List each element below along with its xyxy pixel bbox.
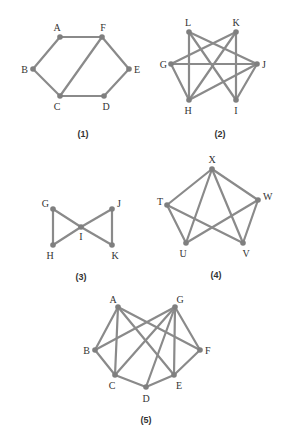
vertex-D [101, 93, 107, 99]
vertex-label-H: H [184, 105, 191, 116]
vertex-J [254, 61, 260, 67]
edge-C-F [60, 37, 102, 96]
edge-G-I [53, 209, 81, 227]
graph-4: XTWUV(4) [157, 154, 273, 280]
vertex-G [168, 61, 174, 67]
vertex-J [109, 206, 115, 212]
vertex-A [57, 34, 63, 40]
vertex-D [143, 384, 149, 390]
edge-J-I [81, 209, 112, 227]
graph-1: AFBECD(1) [21, 22, 140, 139]
vertex-label-F: F [205, 345, 211, 356]
vertex-I [78, 224, 84, 230]
vertex-label-F: F [100, 22, 106, 33]
vertex-C [112, 372, 118, 378]
vertex-X [209, 166, 215, 172]
edge-C-D [115, 375, 146, 387]
edge-H-I [53, 227, 81, 245]
vertex-label-A: A [109, 294, 117, 305]
edge-W-U [186, 200, 258, 243]
vertex-label-G: G [176, 294, 183, 305]
vertex-label-B: B [83, 345, 90, 356]
vertex-H [50, 242, 56, 248]
edge-E-F [174, 350, 200, 375]
vertex-label-K: K [232, 17, 240, 28]
vertex-V [240, 240, 246, 246]
edge-G-E [174, 307, 175, 375]
vertex-G [172, 304, 178, 310]
vertex-E [126, 66, 132, 72]
vertex-A [115, 304, 121, 310]
graph-caption: (2) [215, 129, 226, 139]
vertex-label-H: H [46, 250, 53, 261]
vertex-U [183, 240, 189, 246]
edge-E-D [104, 69, 129, 96]
vertex-label-E: E [176, 380, 182, 391]
graph-diagram-canvas: AFBECD(1) LKGJHI(2) GJIHK(3) XTWUV(4) AG… [0, 0, 281, 442]
vertex-F [197, 347, 203, 353]
vertex-label-X: X [208, 154, 216, 165]
vertex-label-I: I [79, 231, 82, 242]
vertex-label-U: U [179, 248, 187, 259]
edge-I-K [81, 227, 112, 245]
edge-B-C [33, 69, 60, 96]
graph-2: LKGJHI(2) [160, 17, 266, 139]
vertex-B [30, 66, 36, 72]
vertex-label-J: J [262, 59, 266, 70]
vertex-label-W: W [263, 191, 273, 202]
graph-3: GJIHK(3) [42, 198, 121, 282]
edge-A-C [115, 307, 118, 375]
vertex-label-B: B [21, 64, 28, 75]
vertex-K [109, 242, 115, 248]
edge-G-H [171, 64, 189, 100]
vertex-label-C: C [54, 101, 61, 112]
vertex-label-G: G [42, 198, 49, 209]
vertex-label-K: K [111, 250, 119, 261]
vertex-label-L: L [185, 17, 191, 28]
graph-5: AGBFCED(5) [83, 294, 211, 425]
graph-caption: (3) [76, 272, 87, 282]
vertex-I [233, 97, 239, 103]
edge-A-B [33, 37, 60, 69]
graph-caption: (5) [141, 415, 152, 425]
vertex-label-C: C [109, 380, 116, 391]
vertex-B [92, 347, 98, 353]
vertex-C [57, 93, 63, 99]
edge-F-E [102, 37, 129, 69]
vertex-label-E: E [134, 64, 140, 75]
vertex-label-I: I [234, 105, 237, 116]
vertex-label-D: D [102, 101, 109, 112]
vertex-H [186, 97, 192, 103]
vertex-label-D: D [142, 393, 149, 404]
vertex-L [186, 29, 192, 35]
graph-caption: (1) [78, 129, 89, 139]
vertex-label-J: J [117, 198, 121, 209]
vertex-W [255, 197, 261, 203]
vertex-label-A: A [53, 22, 61, 33]
vertex-label-G: G [160, 59, 167, 70]
vertex-F [99, 34, 105, 40]
vertex-G [50, 206, 56, 212]
vertex-E [171, 372, 177, 378]
vertex-K [233, 29, 239, 35]
vertex-label-V: V [242, 248, 250, 259]
graph-caption: (4) [211, 270, 222, 280]
vertex-T [164, 202, 170, 208]
edge-B-C [95, 350, 115, 375]
vertex-label-T: T [157, 196, 163, 207]
edge-T-V [167, 205, 243, 243]
